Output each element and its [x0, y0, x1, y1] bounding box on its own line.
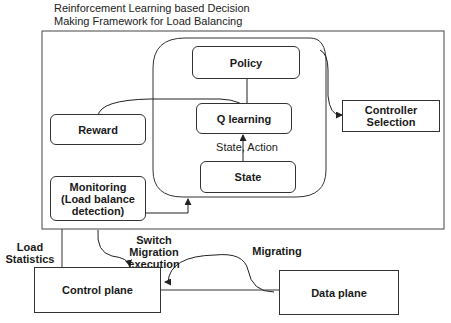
q-learning-label: Q learning	[217, 113, 271, 125]
state-label: State	[235, 171, 262, 183]
reward-label: Reward	[78, 124, 118, 136]
to-controller-selection-arrow	[320, 50, 342, 115]
monitoring-node: Monitoring (Load balance detection)	[50, 176, 146, 221]
load-statistics-line2: Statistics	[2, 253, 58, 265]
policy-label: Policy	[230, 57, 262, 69]
controller-selection-node: Controller Selection	[342, 100, 440, 132]
switch-migration-line2: Migration	[124, 246, 184, 258]
migrating-label: Migrating	[248, 245, 306, 257]
data-plane-label: Data plane	[311, 287, 367, 299]
state-node: State	[200, 161, 296, 193]
state-action-label: State, Action	[212, 141, 282, 153]
control-plane-node: Control plane	[34, 267, 161, 313]
policy-node: Policy	[192, 46, 300, 79]
control-plane-label: Control plane	[62, 284, 133, 296]
monitoring-label-line2: (Load balance	[61, 193, 135, 205]
switch-migration-line1: Switch	[124, 234, 184, 246]
switch-migration-label: Switch Migration execution	[124, 234, 184, 270]
load-statistics-line1: Load	[2, 241, 58, 253]
reward-node: Reward	[50, 114, 146, 145]
load-statistics-label: Load Statistics	[2, 241, 58, 265]
controller-selection-line2: Selection	[367, 116, 416, 128]
monitoring-to-core-arrow	[146, 199, 188, 213]
monitoring-label-line3: detection)	[72, 205, 125, 217]
controller-selection-line1: Controller	[365, 104, 418, 116]
q-learning-node: Q learning	[196, 103, 292, 134]
monitoring-label-line1: Monitoring	[70, 181, 127, 193]
data-plane-node: Data plane	[279, 270, 399, 315]
